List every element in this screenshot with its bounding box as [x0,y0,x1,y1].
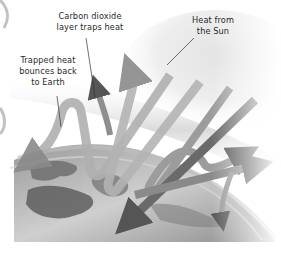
co2-layer-label: Carbon dioxide layer traps heat [50,11,130,33]
sun-heat-label: Heat from the Sun [183,15,243,37]
sun-heat-label-line1: Heat from [183,15,243,26]
co2-layer-label-line1: Carbon dioxide [50,11,130,22]
sun-heat-label-line2: the Sun [183,26,243,37]
trapped-heat-label-line2: bounces back [16,66,80,77]
trapped-heat-label-line3: to Earth [16,77,80,88]
trapped-heat-label: Trapped heat bounces back to Earth [16,55,80,88]
co2-layer-label-line2: layer traps heat [50,22,130,33]
trapped-heat-label-line1: Trapped heat [16,55,80,66]
greenhouse-diagram: Carbon dioxide layer traps heat Heat fro… [0,0,281,255]
fade-overlay [0,0,281,255]
diagram-graphic [0,0,281,255]
